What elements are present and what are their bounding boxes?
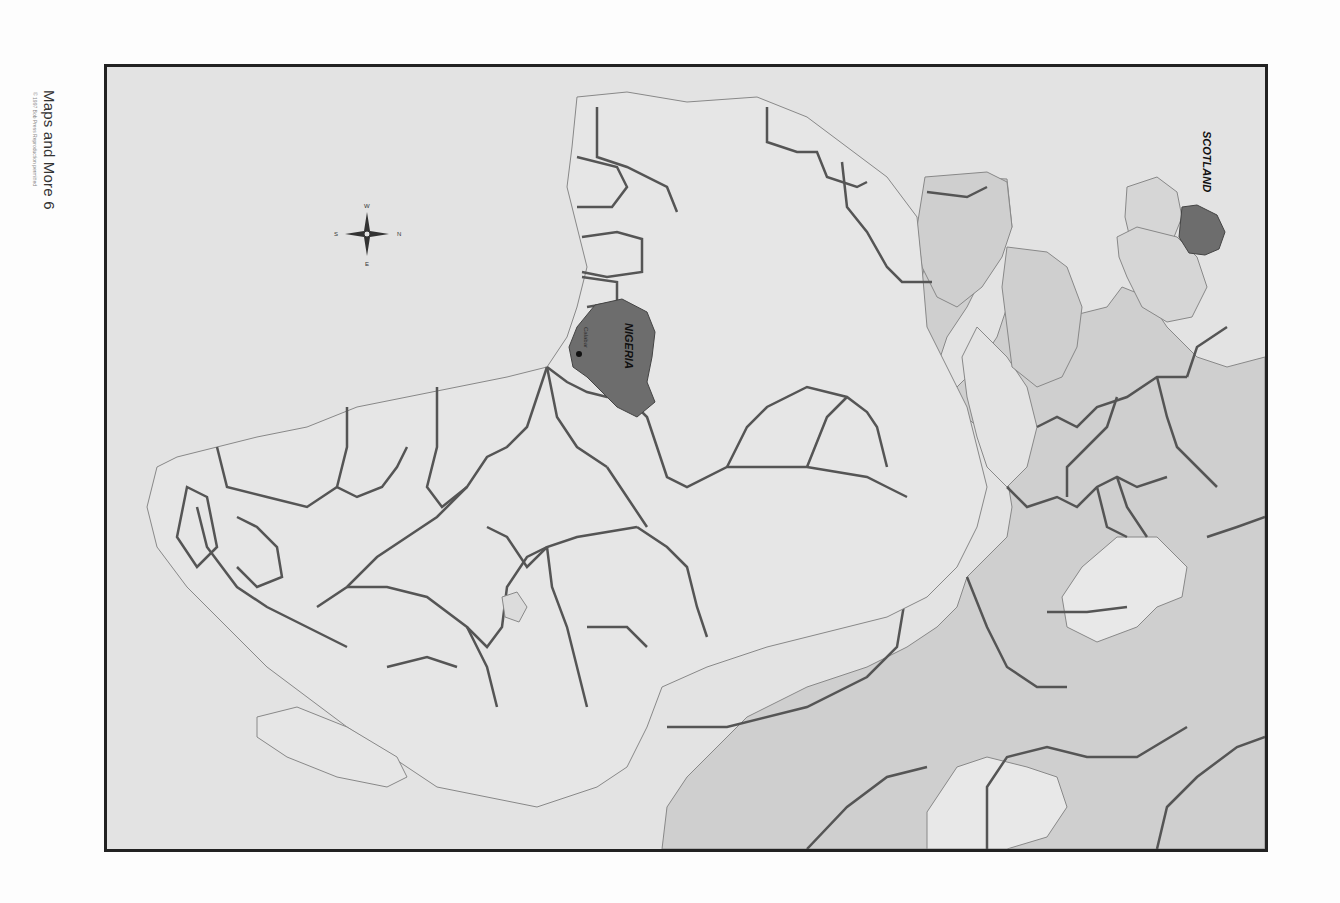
map-caption: Maps and More 6 © 1997 Bob Press Reprodu… bbox=[32, 90, 58, 210]
caption-credit: © 1997 Bob Press Reproduction permitted bbox=[32, 92, 38, 210]
calabar-label: Calabar bbox=[583, 327, 589, 348]
compass-rose: N S W E bbox=[334, 203, 401, 267]
map-frame: SCOTLAND bbox=[104, 64, 1268, 852]
caption-title: Maps and More 6 bbox=[41, 90, 58, 210]
nigeria-label: NIGERIA bbox=[623, 323, 635, 369]
compass-n: N bbox=[397, 231, 401, 237]
scotland-label: SCOTLAND bbox=[1201, 131, 1213, 192]
compass-e: E bbox=[365, 261, 369, 267]
map-canvas: SCOTLAND bbox=[107, 67, 1265, 849]
calabar-marker[interactable] bbox=[576, 351, 582, 357]
compass-w: W bbox=[364, 203, 370, 209]
scotland-region[interactable] bbox=[1179, 205, 1225, 255]
compass-s: S bbox=[334, 231, 338, 237]
